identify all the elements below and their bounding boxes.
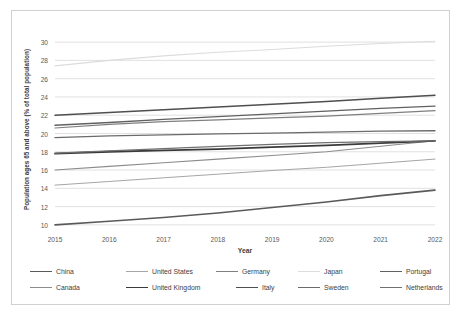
y-axis-tick-label: 16 — [41, 167, 48, 174]
legend-swatch-line-icon — [126, 287, 148, 288]
legend-label: Canada — [56, 284, 80, 291]
legend-row-2: CanadaUnited KingdomItalySwedenNetherlan… — [30, 280, 430, 295]
y-axis-tick-label: 24 — [41, 93, 48, 100]
legend-item-united-states[interactable]: United States — [126, 264, 193, 279]
x-axis-title: Year — [55, 247, 435, 254]
legend-item-sweden[interactable]: Sweden — [298, 280, 349, 295]
legend-item-germany[interactable]: Germany — [216, 264, 270, 279]
x-axis-tick-label: 2022 — [428, 236, 443, 243]
legend-label: Italy — [262, 284, 274, 291]
series-line-china — [55, 190, 435, 225]
series-line-japan — [55, 41, 435, 66]
chart-legend: ChinaUnited StatesGermanyJapanPortugal C… — [30, 262, 430, 296]
legend-label: China — [56, 268, 74, 275]
y-axis-tick-label: 26 — [41, 75, 48, 82]
series-line-united-states — [55, 159, 435, 185]
legend-label: Japan — [324, 268, 343, 275]
legend-label: Portugal — [406, 268, 431, 275]
y-axis-tick-label: 22 — [41, 112, 48, 119]
legend-item-china[interactable]: China — [30, 264, 74, 279]
legend-item-netherlands[interactable]: Netherlands — [380, 280, 443, 295]
legend-label: United Kingdom — [152, 284, 200, 291]
legend-swatch-line-icon — [30, 287, 52, 288]
legend-label: Netherlands — [406, 284, 443, 291]
legend-item-japan[interactable]: Japan — [298, 264, 343, 279]
x-axis-tick-label: 2016 — [102, 236, 117, 243]
x-axis-tick-label: 2019 — [265, 236, 280, 243]
legend-swatch-line-icon — [298, 271, 320, 272]
series-line-italy — [55, 95, 435, 115]
legend-swatch-line-icon — [380, 271, 402, 272]
chart-container: Population ages 65 and above (% of total… — [0, 0, 461, 315]
x-axis-tick-label: 2021 — [373, 236, 388, 243]
y-axis-tick-label: 18 — [41, 148, 48, 155]
legend-item-italy[interactable]: Italy — [236, 280, 274, 295]
y-axis-tick-label: 10 — [41, 221, 48, 228]
legend-item-united-kingdom[interactable]: United Kingdom — [126, 280, 200, 295]
x-axis-tick-label: 2015 — [48, 236, 63, 243]
legend-row-1: ChinaUnited StatesGermanyJapanPortugal — [30, 264, 430, 279]
series-line-sweden — [55, 131, 435, 138]
x-axis-tick-label: 2020 — [319, 236, 334, 243]
y-axis-tick-label: 30 — [41, 39, 48, 46]
y-axis-tick-label: 12 — [41, 203, 48, 210]
series-lines — [55, 41, 435, 225]
legend-swatch-line-icon — [216, 271, 238, 272]
legend-label: Germany — [242, 268, 270, 275]
legend-label: Sweden — [324, 284, 349, 291]
y-axis-tick-label: 28 — [41, 57, 48, 64]
y-axis-tick-labels: 3028262422201816141210 — [0, 33, 52, 234]
legend-label: United States — [152, 268, 193, 275]
x-axis-tick-label: 2017 — [156, 236, 171, 243]
legend-item-portugal[interactable]: Portugal — [380, 264, 431, 279]
legend-swatch-line-icon — [126, 271, 148, 272]
y-axis-tick-label: 14 — [41, 185, 48, 192]
legend-swatch-line-icon — [380, 287, 402, 288]
legend-swatch-line-icon — [236, 287, 258, 288]
plot-svg — [55, 33, 435, 234]
series-line-portugal — [55, 106, 435, 125]
plot-area — [55, 33, 435, 234]
legend-item-canada[interactable]: Canada — [30, 280, 80, 295]
y-axis-tick-label: 20 — [41, 130, 48, 137]
legend-swatch-line-icon — [298, 287, 320, 288]
series-line-germany — [55, 111, 435, 128]
x-axis-tick-label: 2018 — [211, 236, 226, 243]
legend-swatch-line-icon — [30, 271, 52, 272]
